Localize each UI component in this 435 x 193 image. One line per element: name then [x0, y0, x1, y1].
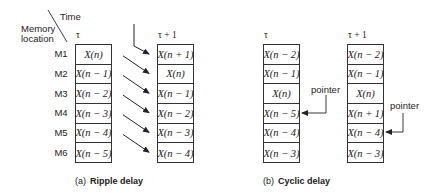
memory-cell: X(n − 5) [76, 143, 111, 163]
memory-location-label: M2 [50, 64, 72, 84]
ripple-tau-memory-block: X(n) X(n − 1) X(n − 2) X(n − 3) X(n − 4)… [75, 44, 112, 163]
cyclic-tau-pointer-arrow [302, 95, 326, 113]
memory-cell: X(n − 4) [158, 143, 193, 163]
memory-cell: X(n − 4) [76, 124, 111, 144]
cell-value: X(n − 1) [347, 68, 383, 79]
cell-value: X(n − 3) [263, 148, 299, 159]
memory-cell: X(n − 2) [158, 104, 193, 124]
memory-location-label: M6 [50, 142, 72, 162]
memory-location-label: M4 [50, 103, 72, 123]
cyclic-tau-pointer-label: pointer [311, 85, 340, 95]
cell-value: X(n − 3) [347, 148, 383, 159]
memory-cell: X(n − 1) [76, 65, 111, 85]
memory-cell: X(n − 1) [158, 84, 193, 104]
memory-location-label: M5 [50, 123, 72, 143]
cell-value: X(n − 2) [157, 108, 193, 119]
cell-value: X(n − 5) [75, 148, 111, 159]
caption-title: Cyclic delay [278, 176, 330, 186]
memory-cell: X(n) [348, 84, 383, 104]
memory-cell: X(n + 1) [158, 45, 193, 65]
memory-location-label: M1 [50, 44, 72, 64]
shift-arrow [123, 115, 149, 133]
ripple-caption: (a)Ripple delay [75, 176, 143, 186]
cell-value: X(n) [84, 49, 103, 60]
cell-value: X(n − 3) [157, 127, 193, 138]
time-axis-label: Time [60, 12, 81, 22]
cell-value: X(n + 1) [157, 49, 193, 60]
caption-tag: (b) [263, 176, 274, 186]
memory-cell: X(n − 3) [158, 124, 193, 144]
memory-cell: X(n) [158, 65, 193, 85]
cell-value: X(n − 4) [347, 127, 383, 138]
memory-cell: X(n − 1) [264, 65, 299, 85]
memory-cell: X(n − 2) [348, 45, 383, 65]
cyclic-tau-plus-1-pointer-label: pointer [390, 101, 419, 111]
cell-value: X(n − 3) [75, 108, 111, 119]
cell-value: X(n − 4) [75, 127, 111, 138]
cell-value: X(n + 1) [347, 108, 383, 119]
cyclic-tau-memory-block: X(n − 2) X(n − 1) X(n) X(n − 5) X(n − 4)… [263, 44, 300, 163]
cell-value: X(n − 4) [157, 148, 193, 159]
memory-cell: X(n − 3) [76, 104, 111, 124]
cell-value: X(n − 1) [157, 88, 193, 99]
shift-arrow [123, 56, 149, 74]
caption-tag: (a) [75, 176, 86, 186]
memory-cell: X(n − 4) [348, 124, 383, 144]
memory-cell: X(n − 3) [264, 143, 299, 163]
shift-arrow [123, 75, 149, 93]
cyclic-col-tau-header: τ [264, 30, 268, 40]
ripple-col-tau-plus-1-header: τ + 1 [158, 30, 177, 40]
shift-arrow [123, 134, 149, 152]
ripple-col-tau-header: τ [76, 30, 80, 40]
memory-cell: X(n) [76, 45, 111, 65]
cell-value: X(n − 2) [263, 49, 299, 60]
cell-value: X(n) [166, 68, 185, 79]
memory-cell: X(n − 2) [264, 45, 299, 65]
memory-cell: X(n − 4) [264, 124, 299, 144]
memory-axis-label-line2: location [21, 34, 54, 44]
ripple-tau-plus-1-memory-block: X(n + 1) X(n) X(n − 1) X(n − 2) X(n − 3)… [157, 44, 194, 163]
memory-cell: X(n + 1) [348, 104, 383, 124]
shift-arrows [123, 56, 149, 152]
cell-value: X(n − 2) [347, 49, 383, 60]
input-arrow [134, 24, 149, 54]
cell-value: X(n) [272, 88, 291, 99]
cell-value: X(n − 2) [75, 88, 111, 99]
memory-cell: X(n − 5) [264, 104, 299, 124]
cell-value: X(n) [356, 88, 375, 99]
cyclic-tau-plus-1-memory-block: X(n − 2) X(n − 1) X(n) X(n + 1) X(n − 4)… [347, 44, 384, 163]
memory-location-label: M3 [50, 83, 72, 103]
memory-cell: X(n − 1) [348, 65, 383, 85]
cell-value: X(n − 1) [263, 68, 299, 79]
cyclic-col-tau-plus-1-header: τ + 1 [348, 30, 367, 40]
cell-value: X(n − 5) [263, 108, 299, 119]
shift-arrow [123, 95, 149, 113]
cyclic-tau-plus-1-pointer-arrow [386, 113, 403, 132]
memory-cell: X(n) [264, 84, 299, 104]
memory-cell: X(n − 2) [76, 84, 111, 104]
memory-location-list: M1 M2 M3 M4 M5 M6 [50, 44, 72, 162]
cell-value: X(n − 4) [263, 127, 299, 138]
caption-title: Ripple delay [90, 176, 143, 186]
memory-cell: X(n − 3) [348, 143, 383, 163]
cyclic-caption: (b)Cyclic delay [263, 176, 330, 186]
cell-value: X(n − 1) [75, 68, 111, 79]
